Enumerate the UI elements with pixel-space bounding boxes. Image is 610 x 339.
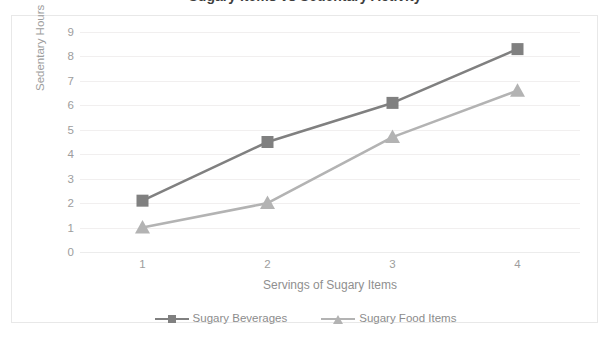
x-axis-ticks: 1 2 3 4 [80, 258, 580, 274]
chart-title: Sugary Items vs Sedentary Activity [0, 0, 610, 4]
data-point-1-1[interactable] [137, 195, 149, 207]
y-tick-1: 1 [56, 222, 74, 234]
chart-frame: Sedentary Hours 9 8 7 6 5 4 3 2 1 0 [11, 15, 598, 323]
legend-swatch-triangle-icon [321, 313, 355, 325]
data-point-2-2[interactable] [260, 196, 275, 210]
y-tick-9: 9 [56, 26, 74, 38]
chart-title-clip: Sugary Items vs Sedentary Activity [0, 0, 610, 7]
y-tick-2: 2 [56, 197, 74, 209]
series-line-1 [143, 49, 518, 201]
series-layer [80, 32, 580, 252]
y-tick-8: 8 [56, 50, 74, 62]
legend-item-sugary-food-items[interactable]: Sugary Food Items [321, 312, 456, 325]
y-axis-ticks: 9 8 7 6 5 4 3 2 1 0 [56, 32, 74, 252]
data-point-2-4[interactable] [510, 83, 525, 97]
x-tick-2: 2 [248, 258, 288, 271]
y-tick-0: 0 [56, 246, 74, 258]
data-point-1-2[interactable] [262, 136, 274, 148]
x-tick-4: 4 [498, 258, 538, 271]
legend-label-sugary-food-items: Sugary Food Items [359, 312, 456, 325]
chart-legend: Sugary Beverages Sugary Food Items [12, 312, 599, 325]
x-tick-3: 3 [373, 258, 413, 271]
y-tick-3: 3 [56, 173, 74, 185]
x-tick-1: 1 [123, 258, 163, 271]
gridline-0 [80, 252, 580, 253]
data-point-1-3[interactable] [387, 97, 399, 109]
data-point-1-4[interactable] [512, 43, 524, 55]
y-tick-6: 6 [56, 99, 74, 111]
legend-item-sugary-beverages[interactable]: Sugary Beverages [155, 312, 288, 325]
plot-area [80, 32, 580, 252]
y-axis-title: Sedentary Hours [34, 5, 46, 91]
y-tick-7: 7 [56, 75, 74, 87]
legend-swatch-square-icon [155, 313, 189, 325]
series-line-2 [143, 91, 518, 228]
x-axis-title: Servings of Sugary Items [80, 278, 580, 292]
legend-label-sugary-beverages: Sugary Beverages [193, 312, 288, 325]
chart-figure: Sugary Items vs Sedentary Activity Seden… [0, 0, 610, 339]
y-tick-4: 4 [56, 148, 74, 160]
y-tick-5: 5 [56, 124, 74, 136]
